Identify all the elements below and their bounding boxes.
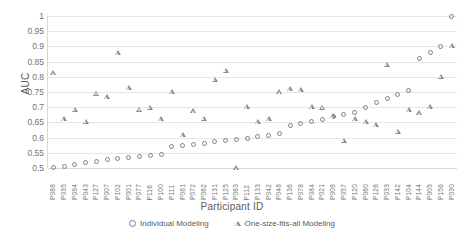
data-point-one-size-fits-all-modeling: [169, 89, 175, 94]
gridline: [48, 107, 457, 108]
scatter-chart: AUC 10.950.90.850.80.750.70.650.60.550.5…: [0, 0, 464, 242]
data-point-one-size-fits-all-modeling: [115, 50, 121, 55]
gridline: [48, 122, 457, 123]
x-axis-tick-label: P094: [71, 184, 78, 200]
data-point-one-size-fits-all-modeling: [255, 119, 261, 124]
data-point-individual-modeling: [352, 110, 357, 115]
x-axis-tick-label: P116: [146, 185, 153, 201]
gridline: [48, 16, 457, 17]
x-axis-tick-label: P057: [340, 184, 347, 200]
data-point-one-size-fits-all-modeling: [373, 122, 379, 127]
x-axis-title: Participant ID: [0, 201, 464, 212]
x-axis-tick-label: P111: [168, 185, 175, 200]
data-point-one-size-fits-all-modeling: [330, 113, 336, 118]
x-axis-ticks: P088P035P094P043P127P007P102P001P077P116…: [47, 170, 456, 200]
data-point-one-size-fits-all-modeling: [276, 89, 282, 94]
x-axis-tick-label: P125: [222, 184, 229, 200]
circle-marker-icon: [129, 220, 136, 227]
data-point-one-size-fits-all-modeling: [449, 43, 455, 48]
x-axis-tick-label: P102: [114, 184, 121, 200]
data-point-one-size-fits-all-modeling: [298, 87, 304, 92]
y-axis-tick-label: 0.8: [10, 73, 44, 82]
data-point-individual-modeling: [105, 157, 110, 162]
data-point-individual-modeling: [320, 117, 325, 122]
data-point-one-size-fits-all-modeling: [126, 85, 132, 90]
x-axis-tick-label: P100: [157, 184, 164, 200]
data-point-individual-modeling: [341, 112, 346, 117]
data-point-individual-modeling: [169, 144, 174, 149]
data-point-individual-modeling: [62, 164, 67, 169]
data-point-one-size-fits-all-modeling: [93, 91, 99, 96]
y-axis-tick-label: 0.9: [10, 42, 44, 51]
x-axis-tick-label: P126: [372, 184, 379, 200]
y-axis-tick-label: 0.65: [10, 118, 44, 127]
x-axis-tick-label: P120: [351, 184, 358, 200]
x-axis-tick-label: P133: [254, 184, 261, 200]
data-point-individual-modeling: [223, 138, 228, 143]
x-axis-tick-label: P112: [243, 185, 250, 201]
x-axis-tick-label: P030: [448, 184, 455, 200]
data-point-individual-modeling: [159, 152, 164, 157]
x-axis-tick-label: P142: [394, 184, 401, 200]
x-axis-tick-label: P081: [179, 184, 186, 200]
data-point-one-size-fits-all-modeling: [190, 108, 196, 113]
x-axis-tick-label: P156: [437, 184, 444, 200]
legend-label-individual-modeling: Individual Modeling: [140, 219, 209, 228]
data-point-individual-modeling: [245, 136, 250, 141]
y-axis-tick-label: 0.95: [10, 27, 44, 36]
gridline: [48, 62, 457, 63]
data-point-individual-modeling: [94, 159, 99, 164]
y-axis-tick-label: 0.6: [10, 133, 44, 142]
data-point-individual-modeling: [180, 143, 185, 148]
data-point-one-size-fits-all-modeling: [319, 105, 325, 110]
data-point-individual-modeling: [212, 139, 217, 144]
legend-label-one-size-fits-all-modeling: One-size-fits-all Modeling: [245, 219, 335, 228]
data-point-individual-modeling: [255, 134, 260, 139]
data-point-individual-modeling: [115, 156, 120, 161]
gridline: [48, 153, 457, 154]
data-point-one-size-fits-all-modeling: [287, 86, 293, 91]
data-point-one-size-fits-all-modeling: [212, 77, 218, 82]
data-point-individual-modeling: [288, 123, 293, 128]
data-point-individual-modeling: [363, 105, 368, 110]
data-point-individual-modeling: [417, 56, 422, 61]
x-axis-tick-label: P008: [329, 184, 336, 200]
y-axis-tick-label: 0.85: [10, 57, 44, 66]
x-axis-tick-label: P072: [189, 184, 196, 200]
data-point-one-size-fits-all-modeling: [201, 116, 207, 121]
x-axis-tick-label: P131: [211, 184, 218, 200]
data-point-individual-modeling: [385, 96, 390, 101]
gridline: [48, 31, 457, 32]
chart-legend: Individual Modeling One-size-fits-all Mo…: [0, 219, 464, 228]
y-axis-tick-label: 0.55: [10, 149, 44, 158]
data-point-individual-modeling: [202, 141, 207, 146]
gridline: [48, 46, 457, 47]
x-axis-tick-label: P043: [82, 184, 89, 200]
x-axis-tick-label: P127: [92, 184, 99, 200]
data-point-one-size-fits-all-modeling: [147, 105, 153, 110]
data-point-one-size-fits-all-modeling: [50, 70, 56, 75]
data-point-one-size-fits-all-modeling: [427, 104, 433, 109]
data-point-individual-modeling: [277, 131, 282, 136]
data-point-individual-modeling: [137, 154, 142, 159]
data-point-one-size-fits-all-modeling: [180, 132, 186, 137]
x-axis-tick-label: P033: [383, 184, 390, 200]
data-point-individual-modeling: [148, 153, 153, 158]
y-axis-tick-label: 0.7: [10, 103, 44, 112]
data-point-one-size-fits-all-modeling: [363, 119, 369, 124]
data-point-one-size-fits-all-modeling: [83, 119, 89, 124]
x-axis-tick-label: P078: [297, 184, 304, 200]
data-point-individual-modeling: [72, 162, 77, 167]
x-axis-tick-label: P005: [426, 184, 433, 200]
data-point-one-size-fits-all-modeling: [244, 104, 250, 109]
x-axis-tick-label: P062: [200, 184, 207, 200]
data-point-one-size-fits-all-modeling: [352, 116, 358, 121]
data-point-individual-modeling: [428, 50, 433, 55]
gridline: [48, 77, 457, 78]
data-point-individual-modeling: [438, 44, 443, 49]
gridline: [48, 168, 457, 169]
data-point-individual-modeling: [126, 155, 131, 160]
x-axis-tick-label: P063: [232, 184, 239, 200]
data-point-individual-modeling: [309, 119, 314, 124]
data-point-individual-modeling: [406, 88, 411, 93]
